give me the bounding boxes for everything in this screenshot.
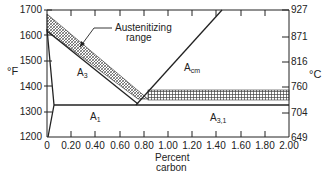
y-left-unit: °F xyxy=(7,66,18,76)
ytick-c-927: 927 xyxy=(291,5,308,15)
ytick-f-1300: 1300 xyxy=(12,107,42,117)
xtick-1.40: 1.40 xyxy=(202,141,230,151)
xtick-0.40: 0.40 xyxy=(81,141,109,151)
ytick-f-1600: 1600 xyxy=(12,31,42,41)
y-right-unit: °C xyxy=(309,69,321,79)
a3-label: A3 xyxy=(77,68,88,81)
ytick-c-760: 760 xyxy=(291,82,308,92)
austenitizing-label-line2: range xyxy=(126,33,152,43)
ytick-f-1700: 1700 xyxy=(12,5,42,15)
acm-label: Acm xyxy=(184,63,200,76)
ytick-f-1400: 1400 xyxy=(12,82,42,92)
ytick-c-871: 871 xyxy=(291,32,308,42)
alpha-boundary xyxy=(47,29,54,137)
ytick-c-704: 704 xyxy=(291,108,308,118)
a31-label: A3,1 xyxy=(210,113,226,126)
a3-line xyxy=(47,31,138,104)
austenitizing-band-hyper xyxy=(148,90,289,100)
ytick-c-816: 816 xyxy=(291,57,308,67)
a1-label: A1 xyxy=(90,112,101,125)
xtick-2.00: 2.00 xyxy=(275,141,303,151)
x-axis-title-line2: carbon xyxy=(156,163,187,173)
